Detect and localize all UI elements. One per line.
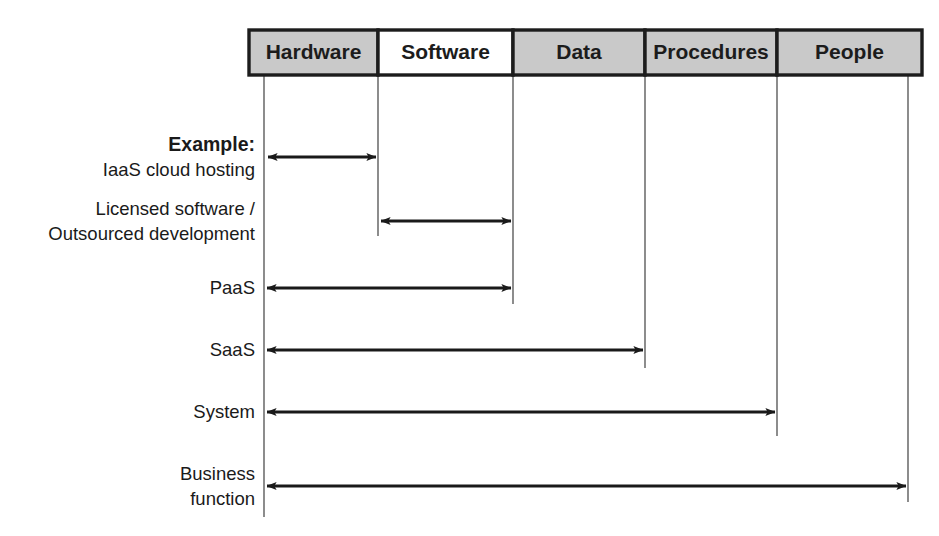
header-label-hardware: Hardware	[266, 40, 362, 63]
row-label-system-line-0: System	[193, 401, 255, 422]
row-label-business-function-line-1: function	[190, 488, 255, 509]
row-label-saas-line-0: SaaS	[210, 339, 255, 360]
scope-arrows	[267, 157, 906, 486]
row-label-licensed-software-line-1: Outsourced development	[48, 223, 255, 244]
header-label-software: Software	[401, 40, 490, 63]
header-label-people: People	[815, 40, 884, 63]
header-label-procedures: Procedures	[653, 40, 769, 63]
row-label-iaas-line-0: Example:	[168, 133, 255, 155]
scope-layers-diagram: HardwareSoftwareDataProceduresPeople Exa…	[0, 0, 939, 536]
row-label-paas-line-0: PaaS	[210, 277, 255, 298]
row-labels: Example:IaaS cloud hostingLicensed softw…	[48, 133, 256, 509]
column-guide-lines	[264, 75, 908, 517]
header-label-data: Data	[556, 40, 602, 63]
row-label-licensed-software-line-0: Licensed software /	[96, 198, 256, 219]
header-row: HardwareSoftwareDataProceduresPeople	[249, 30, 922, 75]
row-label-iaas-line-1: IaaS cloud hosting	[103, 159, 255, 180]
diagram-canvas: HardwareSoftwareDataProceduresPeople Exa…	[0, 0, 939, 536]
row-label-business-function-line-0: Business	[180, 463, 255, 484]
